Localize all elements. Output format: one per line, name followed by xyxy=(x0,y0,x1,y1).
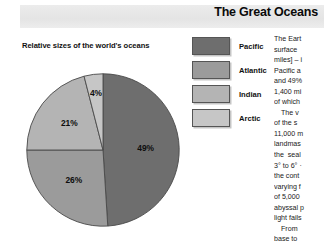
article-line: and 49% xyxy=(274,76,324,87)
legend-item-arctic[interactable]: Arctic xyxy=(192,107,278,129)
pie-label-arctic: 4% xyxy=(90,88,103,98)
pie-chart-svg: 49%26%21%4% xyxy=(26,73,180,227)
article-line: base to xyxy=(274,234,324,245)
article-line: From xyxy=(274,224,324,235)
article-text-column: The Eartsurfacemiles] – iPacific aand 49… xyxy=(274,34,324,249)
article-line: the cont xyxy=(274,171,324,182)
article-line: of 5,000 xyxy=(274,192,324,203)
article-line: varying f xyxy=(274,182,324,193)
article-line: The v xyxy=(274,108,324,119)
legend-label-indian: Indian xyxy=(239,90,261,99)
legend-swatch-arctic xyxy=(192,109,230,127)
legend-item-indian[interactable]: Indian xyxy=(192,83,278,105)
legend-item-atlantic[interactable]: Atlantic xyxy=(192,59,278,81)
article-line: surface xyxy=(274,45,324,56)
figure-caption: Relative sizes of the world's oceans xyxy=(22,41,149,50)
article-paragraph: The vof the s11,000 mlandmasthe seal3° t… xyxy=(274,108,324,224)
article-line: the seal xyxy=(274,150,324,161)
page-title: The Great Oceans xyxy=(214,5,318,19)
legend-item-pacific[interactable]: Pacific xyxy=(192,35,278,57)
article-line: 1,400 mi xyxy=(274,87,324,98)
article-line: 3° to 6° · xyxy=(274,161,324,172)
article-line: light fails xyxy=(274,213,324,224)
article-paragraph: The Eartsurfacemiles] – iPacific aand 49… xyxy=(274,34,324,108)
article-line: of the s xyxy=(274,118,324,129)
article-line: of which xyxy=(274,97,324,108)
legend-label-pacific: Pacific xyxy=(239,42,263,51)
pie-label-atlantic: 26% xyxy=(65,175,82,185)
legend-label-atlantic: Atlantic xyxy=(239,66,267,75)
pie-slices xyxy=(27,74,179,226)
pie-chart: 49%26%21%4% xyxy=(26,73,180,227)
article-line: landmas xyxy=(274,139,324,150)
legend-swatch-pacific xyxy=(192,37,230,55)
legend-label-arctic: Arctic xyxy=(239,114,261,123)
legend-swatch-atlantic xyxy=(192,61,230,79)
pie-slice-atlantic[interactable] xyxy=(27,150,108,226)
chart-legend: Pacific Atlantic Indian Arctic xyxy=(192,35,278,131)
article-line: abyssal p xyxy=(274,203,324,214)
article-paragraph: Frombase to xyxy=(274,224,324,245)
article-line: Pacific a xyxy=(274,66,324,77)
article-line: miles] – i xyxy=(274,55,324,66)
article-line: 11,000 m xyxy=(274,129,324,140)
article-line: The Eart xyxy=(274,34,324,45)
pie-label-pacific: 49% xyxy=(137,143,154,153)
pie-label-indian: 21% xyxy=(61,118,78,128)
legend-swatch-indian xyxy=(192,85,230,103)
